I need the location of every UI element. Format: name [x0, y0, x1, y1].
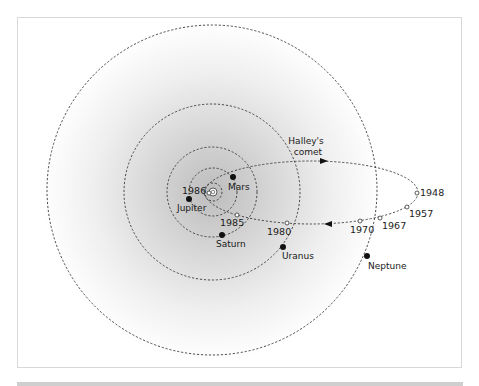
- year-label-1948: 1948: [420, 187, 444, 198]
- year-label-1967: 1967: [382, 220, 406, 231]
- mars-label: Mars: [228, 182, 250, 192]
- saturn-label: Saturn: [216, 239, 246, 249]
- year-marker-1986: [207, 191, 211, 195]
- comet-label-line2: comet: [294, 147, 323, 157]
- jupiter-label: Jupiter: [176, 203, 207, 213]
- year-label-1986: 1986: [182, 185, 206, 196]
- year-marker-1948: [415, 191, 419, 195]
- comet-label-line1: Halley's: [288, 136, 324, 146]
- neptune-planet-icon: [364, 253, 370, 259]
- uranus-label: Uranus: [282, 251, 314, 261]
- year-marker-1970: [358, 219, 362, 223]
- saturn-planet-icon: [219, 232, 225, 238]
- solar-system-diagram: Mars Jupiter Saturn Uranus Neptune 1986 …: [0, 0, 479, 386]
- uranus-planet-icon: [280, 244, 286, 250]
- year-label-1970: 1970: [350, 224, 374, 235]
- year-marker-1980: [285, 221, 289, 225]
- mars-planet-icon: [230, 174, 236, 180]
- year-label-1980: 1980: [267, 226, 291, 237]
- neptune-label: Neptune: [368, 261, 407, 271]
- jupiter-planet-icon: [186, 196, 192, 202]
- year-label-1985: 1985: [220, 217, 244, 228]
- year-label-1957: 1957: [409, 208, 433, 219]
